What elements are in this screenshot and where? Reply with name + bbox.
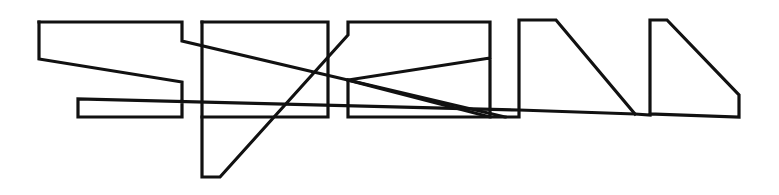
- middle-shape-b: [202, 22, 490, 177]
- line-drawing-canvas: [0, 0, 779, 195]
- polyline-drawing: [0, 0, 779, 195]
- left-shape-lower: [39, 20, 739, 117]
- left-shape-outline: [39, 20, 635, 117]
